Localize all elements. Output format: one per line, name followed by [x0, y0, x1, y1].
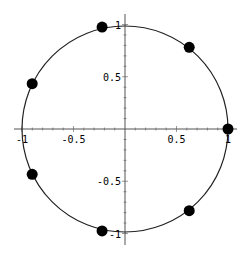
data-point — [27, 78, 38, 89]
y-tick-label: -1 — [109, 229, 121, 240]
data-point — [97, 22, 108, 33]
y-tick-label: 0.5 — [103, 72, 121, 83]
x-tick-label: -1 — [16, 134, 28, 145]
x-tick-label: -0.5 — [61, 134, 85, 145]
data-point — [97, 225, 108, 236]
y-tick-label: 1 — [115, 20, 121, 31]
data-point — [184, 42, 195, 53]
data-point — [27, 169, 38, 180]
x-tick-label: 0.5 — [167, 134, 185, 145]
data-point — [223, 124, 234, 135]
y-tick-label: -0.5 — [97, 176, 121, 187]
data-point — [184, 205, 195, 216]
x-tick-label: 1 — [225, 134, 231, 145]
axes — [14, 14, 237, 245]
chart: -1-0.50.5110.5-0.5-1 — [0, 0, 249, 257]
